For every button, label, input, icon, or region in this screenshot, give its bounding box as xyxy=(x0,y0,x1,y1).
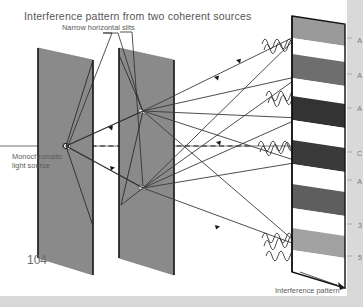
fringe-edge-label-0: A xyxy=(357,37,362,44)
fringe-edge-label-4: A xyxy=(357,178,362,185)
page-number: 104 xyxy=(27,253,47,267)
interference-pattern-caption: Interference pattern xyxy=(275,286,340,295)
fringe-edge-label-2: A xyxy=(357,105,362,112)
diagram-title: Interference pattern from two coherent s… xyxy=(24,10,251,22)
fringe-edge-label-3: C xyxy=(357,150,362,157)
fringe-edge-label-6: 5 xyxy=(358,254,362,261)
fringe-edge-label-5: 3 xyxy=(358,222,362,229)
monochromatic-source-label: Monochromatic light source xyxy=(12,152,63,170)
narrow-slits-label: Narrow horizontal slits xyxy=(62,23,135,32)
fringe-bands xyxy=(292,16,345,288)
fringe-edge-label-1: A xyxy=(357,72,362,79)
source-label-line1: Monochromatic xyxy=(12,152,63,161)
edge-ticks xyxy=(347,38,352,256)
diagram-stage: Interference pattern from two coherent s… xyxy=(0,0,363,307)
observation-screen xyxy=(288,10,350,296)
double-slit-barrier-face xyxy=(119,48,174,275)
source-label-line2: light source xyxy=(12,161,50,170)
